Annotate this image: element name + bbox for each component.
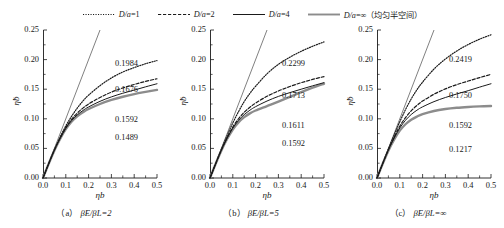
legend-swatch-solid-thick xyxy=(307,10,341,19)
legend-item-d-a-4[interactable]: D/a=4 xyxy=(232,10,290,19)
chart-legend: D/a=1D/a=2D/a=4D/a=∞（均匀半空间） xyxy=(0,6,504,22)
y-tick-label: 0.20 xyxy=(358,55,373,63)
curve-end-label: 0.1489 xyxy=(115,134,138,142)
legend-item-d-a-2[interactable]: D/a=2 xyxy=(157,10,215,19)
curve-end-label: 0.1750 xyxy=(449,92,472,100)
curve-end-label: 0.2299 xyxy=(282,60,305,68)
legend-item-d-a-1[interactable]: D/a=1 xyxy=(82,10,140,19)
x-axis-label: ηb xyxy=(377,190,491,200)
axis-ticks xyxy=(210,30,324,178)
y-tick-label: 0.15 xyxy=(24,85,39,93)
axis-ticks xyxy=(377,30,491,178)
curve-end-label: 0.1676 xyxy=(115,86,138,94)
plot-area: 0.000.050.100.150.200.250.00.10.20.30.40… xyxy=(377,30,491,178)
x-axis-label: ηb xyxy=(43,190,157,200)
subplot-b: η̃b0.000.050.100.150.200.250.00.10.20.30… xyxy=(167,24,335,228)
y-tick-label: 0.10 xyxy=(191,115,206,123)
plot-area: 0.000.050.100.150.200.250.00.10.20.30.40… xyxy=(210,30,324,178)
caption-index: （b） xyxy=(223,208,247,218)
subplot-caption: （a） βE/βL=2 xyxy=(0,206,168,218)
caption-expression: βE/βL=2 xyxy=(80,208,111,218)
subplot-a: η̃b0.000.050.100.150.200.250.00.10.20.30… xyxy=(0,24,168,228)
y-tick-label: 0.15 xyxy=(191,85,206,93)
legend-swatch-solid-thin xyxy=(232,10,266,19)
plot-area: 0.000.050.100.150.200.250.00.10.20.30.40… xyxy=(43,30,157,178)
legend-label: D/a=2 xyxy=(194,10,215,19)
y-tick-label: 0.05 xyxy=(191,144,206,152)
caption-index: （a） xyxy=(56,208,80,218)
curve-D-a-4 xyxy=(377,84,491,178)
y-axis-label: η̃b xyxy=(345,94,355,108)
curve-end-label: 0.1592 xyxy=(449,122,472,130)
curve-D-a-1 xyxy=(210,42,324,178)
y-tick-label: 0.05 xyxy=(358,144,373,152)
y-axis-label: η̃b xyxy=(11,94,21,108)
axis-spines xyxy=(211,30,325,178)
y-tick-label: 0.25 xyxy=(358,26,373,34)
y-tick-label: 0.10 xyxy=(24,115,39,123)
y-tick-label: 0.10 xyxy=(358,115,373,123)
curve-D-a-inf xyxy=(210,84,324,178)
subplot-container: η̃b0.000.050.100.150.200.250.00.10.20.30… xyxy=(0,24,504,228)
caption-expression: βE/βL=5 xyxy=(248,208,279,218)
subplot-caption: （b） βE/βL=5 xyxy=(167,206,335,218)
curve-D-a-2 xyxy=(377,74,491,178)
legend-swatch-dotted xyxy=(82,10,116,19)
subplot-c: η̃b0.000.050.100.150.200.250.00.10.20.30… xyxy=(334,24,502,228)
x-axis-label: ηb xyxy=(210,190,324,200)
curve-end-label: 0.1713 xyxy=(282,92,305,100)
legend-item-d-a-inf[interactable]: D/a=∞（均匀半空间） xyxy=(307,8,423,20)
curve-D-a-inf xyxy=(377,106,491,178)
figure-root: D/a=1D/a=2D/a=4D/a=∞（均匀半空间） η̃b0.000.050… xyxy=(0,0,504,228)
curve-end-label: 0.2419 xyxy=(449,56,472,64)
y-tick-label: 0.20 xyxy=(191,55,206,63)
caption-expression: βE/βL=∞ xyxy=(414,208,447,218)
y-tick-label: 0.25 xyxy=(191,26,206,34)
axis-spines xyxy=(378,30,492,178)
caption-index: （c） xyxy=(390,208,414,218)
curve-end-label: 0.1592 xyxy=(115,116,138,124)
curve-D-a-1 xyxy=(43,61,157,178)
legend-swatch-dashed xyxy=(157,10,191,19)
legend-label: D/a=1 xyxy=(119,10,140,19)
y-axis-label: η̃b xyxy=(178,94,188,108)
y-tick-label: 0.20 xyxy=(24,55,39,63)
plot-canvas xyxy=(43,30,159,180)
subplot-caption: （c） βE/βL=∞ xyxy=(334,206,502,218)
plot-canvas xyxy=(210,30,326,180)
curve-end-label: 0.1592 xyxy=(282,140,305,148)
legend-label: D/a=∞（均匀半空间） xyxy=(344,8,423,20)
curve-end-label: 0.1611 xyxy=(282,122,305,130)
legend-label: D/a=4 xyxy=(269,10,290,19)
curve-end-label: 0.1984 xyxy=(115,60,138,68)
plot-canvas xyxy=(377,30,493,180)
y-tick-label: 0.15 xyxy=(358,85,373,93)
y-tick-label: 0.05 xyxy=(24,144,39,152)
y-tick-label: 0.25 xyxy=(24,26,39,34)
curve-D-a-2 xyxy=(210,77,324,178)
curve-end-label: 0.1217 xyxy=(449,146,472,154)
